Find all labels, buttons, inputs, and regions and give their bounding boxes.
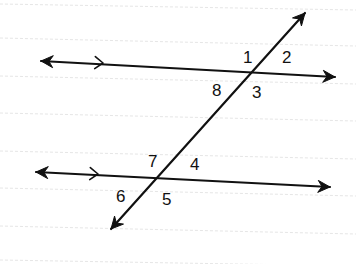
angle-label-8: 8 xyxy=(212,81,221,100)
ruled-line xyxy=(0,4,356,10)
bottom-parallel-line-stroke xyxy=(36,172,330,187)
diagram-canvas: 12837465 xyxy=(0,0,356,264)
ruled-line xyxy=(0,226,356,234)
ruled-line xyxy=(0,38,356,46)
angle-label-4: 4 xyxy=(190,155,199,174)
parallel-mark-chevron-icon xyxy=(90,168,98,180)
ruled-line xyxy=(0,76,356,84)
ruled-line xyxy=(0,188,356,196)
angle-label-7: 7 xyxy=(148,152,157,171)
bottom-parallel-line xyxy=(36,167,330,193)
transversal xyxy=(111,13,305,229)
diagram-svg: 12837465 xyxy=(0,0,356,264)
ruled-line xyxy=(0,113,356,121)
angle-label-1: 1 xyxy=(243,48,252,67)
angle-label-2: 2 xyxy=(282,48,291,67)
angle-label-5: 5 xyxy=(162,190,171,209)
ruled-line xyxy=(0,260,356,264)
angle-label-3: 3 xyxy=(252,83,261,102)
notebook-ruled-lines xyxy=(0,4,356,264)
transversal-stroke xyxy=(111,13,305,229)
parallel-mark-chevron-icon xyxy=(95,57,103,69)
geometry-lines xyxy=(36,13,335,229)
angle-label-6: 6 xyxy=(116,187,125,206)
